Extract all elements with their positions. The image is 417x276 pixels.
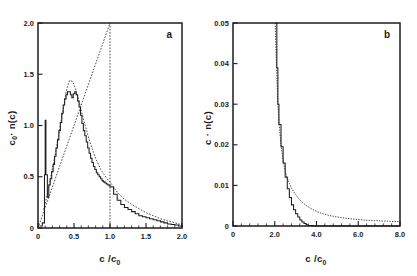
panel-b-xlabel-sub: 0 <box>323 259 327 266</box>
panel-a-ytick-label: 2.0 <box>23 19 34 28</box>
panel-b-y-tick-labels: 00.010.020.030.040.05 <box>214 19 230 231</box>
panel-a-ytick-label: 1.5 <box>23 70 34 79</box>
panel-a-xtick-label: 2.0 <box>177 232 188 241</box>
panel-a-y-axis-title: c0· n(c) <box>6 111 18 146</box>
panel-b-x-axis-title: c /c0 <box>305 253 326 266</box>
panel-b-label: b <box>384 29 390 40</box>
panel-b: 00.010.020.030.040.05 02.04.06.08.0 b c … <box>202 19 405 266</box>
svg-text:c0· n(c): c0· n(c) <box>6 111 18 146</box>
panel-a-x-tick-labels: 00.51.01.52.0 <box>36 232 187 241</box>
panel-a-ytick-label: 1.0 <box>23 121 34 130</box>
simulation-histogram-curve <box>39 92 182 227</box>
panel-b-xtick-label: 6.0 <box>353 230 364 239</box>
panel-a-ytick-label: 0 <box>30 224 34 233</box>
panel-a-x-axis-title: c /c0 <box>99 253 120 266</box>
panel-a-xtick-label: 0 <box>36 232 40 241</box>
panel-b-ylabel: c · n(c) <box>202 111 213 145</box>
panel-b-xtick-label: 0 <box>231 230 235 239</box>
panel-a-xtick-label: 1.0 <box>105 232 116 241</box>
panel-b-xtick-label: 4.0 <box>311 230 322 239</box>
panel-a-xlabel-sub: 0 <box>117 259 121 266</box>
panel-b-ytick-label: 0.04 <box>214 59 230 68</box>
panel-b-ytick-label: 0.03 <box>214 100 229 109</box>
figure-container: 0.51.01.52.00 00.51.01.52.0 a c0· n(c) c… <box>0 0 417 276</box>
panel-b-frame <box>233 23 400 226</box>
simulation-curve <box>276 23 400 226</box>
panel-a-xtick-label: 1.5 <box>141 232 152 241</box>
panel-a-ylabel-tail: · n(c) <box>6 111 17 136</box>
panel-b-ytick-label: 0.01 <box>214 181 229 190</box>
panel-b-ytick-label: 0.02 <box>214 140 229 149</box>
panel-b-xtick-label: 8.0 <box>395 230 406 239</box>
panel-a-ytick-label: 0.5 <box>23 172 34 181</box>
panel-b-xtick-label: 2.0 <box>269 230 280 239</box>
panel-b-ytick-label: 0 <box>225 222 229 231</box>
panel-a-xtick-label: 0.5 <box>69 232 80 241</box>
panel-b-ytick-label: 0.05 <box>214 19 229 28</box>
panel-b-x-tick-labels: 02.04.06.08.0 <box>231 230 405 239</box>
theory-curve <box>275 23 400 222</box>
panel-a-label: a <box>166 29 172 40</box>
panel-a-y-tick-labels: 0.51.01.52.00 <box>23 19 34 233</box>
figure-svg: 0.51.01.52.00 00.51.01.52.0 a c0· n(c) c… <box>0 0 417 276</box>
panel-b-xlabel-main: c /c <box>305 253 323 264</box>
panel-b-y-axis-title: c · n(c) <box>202 111 213 145</box>
panel-a-xlabel-main: c /c <box>99 253 117 264</box>
panel-a: 0.51.01.52.00 00.51.01.52.0 a c0· n(c) c… <box>6 19 187 266</box>
